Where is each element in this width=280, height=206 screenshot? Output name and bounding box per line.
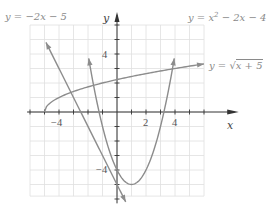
x-axis-label: x xyxy=(227,120,233,131)
tick-y-4: 4 xyxy=(102,50,107,61)
y-axis-label: y xyxy=(103,13,109,24)
parabola-pre: y = x xyxy=(188,12,214,23)
tick-x-neg4: −4 xyxy=(51,118,62,129)
tick-x-2: 2 xyxy=(143,118,148,129)
tick-x-4: 4 xyxy=(172,118,177,129)
curves xyxy=(45,42,205,202)
label-linear: y = −2x − 5 xyxy=(5,12,67,22)
function-graph xyxy=(0,0,280,206)
label-parabola: y = x2 − 2x − 4 xyxy=(188,12,266,23)
label-sqrt: y = √x + 5 xyxy=(209,61,263,71)
tick-y-neg4: −4 xyxy=(96,165,107,176)
sqrt-icon: √ xyxy=(229,60,235,71)
sqrt-radicand: x + 5 xyxy=(236,59,263,71)
parabola-post: − 2x − 4 xyxy=(219,12,267,23)
sqrt-pre: y = xyxy=(209,60,229,71)
